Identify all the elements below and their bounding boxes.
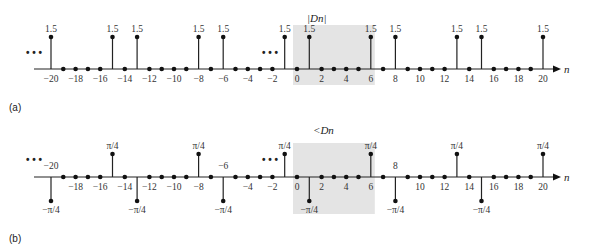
- stem-marker: [528, 67, 533, 72]
- stem-marker: [430, 175, 435, 180]
- stem-value-label: 1.5: [45, 24, 57, 34]
- x-tick-label: −4: [243, 74, 253, 84]
- stem-marker: [307, 199, 312, 204]
- stem-marker: [258, 175, 263, 180]
- x-tick-label: −12: [142, 74, 157, 84]
- stem-marker: [258, 67, 263, 72]
- x-tick-label: 12: [440, 74, 450, 84]
- stem-value-label: 1.5: [537, 24, 549, 34]
- stem-marker: [49, 35, 54, 40]
- x-tick-label: 10: [415, 182, 425, 192]
- stem-value-label: 1.5: [193, 24, 205, 34]
- x-tick-label: 6: [368, 74, 373, 84]
- stem-marker: [110, 35, 115, 40]
- stem-value-label: π/4: [279, 141, 291, 151]
- stem-marker: [246, 175, 251, 180]
- axis-arrow-icon: [553, 66, 561, 73]
- stem-marker: [405, 67, 410, 72]
- x-tick-label: 0: [295, 182, 300, 192]
- stem-marker: [467, 67, 472, 72]
- x-tick-label: −8: [194, 182, 204, 192]
- stem-marker: [123, 175, 128, 180]
- stem-marker: [233, 67, 238, 72]
- stem-marker: [442, 175, 447, 180]
- stem-marker: [442, 67, 447, 72]
- x-tick-label: −8: [194, 74, 204, 84]
- stem-value-label: −π/4: [301, 205, 319, 215]
- x-tick-label: −14: [117, 74, 132, 84]
- stem-marker: [246, 67, 251, 72]
- panel-label-a: (a): [9, 102, 21, 113]
- axis-label-n: n: [564, 63, 570, 75]
- x-tick-label: −10: [167, 182, 182, 192]
- stem-marker: [172, 175, 177, 180]
- stem-value-label: 1.5: [107, 24, 119, 34]
- stem-marker: [282, 35, 287, 40]
- stem-marker: [393, 199, 398, 204]
- stem-marker: [516, 67, 521, 72]
- x-tick-label: 20: [538, 74, 548, 84]
- stem-marker: [135, 199, 140, 204]
- x-tick-label: 20: [538, 182, 548, 192]
- stem-value-label: −π/4: [128, 205, 146, 215]
- stem-marker: [233, 175, 238, 180]
- x-tick-label: 2: [319, 182, 324, 192]
- x-tick-label: −14: [117, 182, 132, 192]
- stem-value-label: 1.5: [451, 24, 463, 34]
- x-tick-label: 14: [464, 74, 474, 84]
- stem-marker: [344, 175, 349, 180]
- stem-marker: [159, 67, 164, 72]
- stem-marker: [455, 152, 460, 157]
- stem-marker: [73, 67, 78, 72]
- x-tick-label: 0: [295, 74, 300, 84]
- stem-value-label: 1.5: [279, 24, 291, 34]
- stem-marker: [504, 67, 509, 72]
- x-tick-label: 4: [344, 182, 349, 192]
- stem-marker: [541, 152, 546, 157]
- x-tick-label: −18: [68, 182, 83, 192]
- stem-value-label: 1.5: [389, 24, 401, 34]
- x-tick-label: 10: [415, 74, 425, 84]
- stem-marker: [209, 67, 214, 72]
- ellipsis-left: • • •: [26, 154, 43, 165]
- stem-marker: [209, 175, 214, 180]
- stem-value-label: 1.5: [131, 24, 143, 34]
- stem-marker: [86, 175, 91, 180]
- stem-marker: [98, 175, 103, 180]
- x-tick-label: 16: [489, 182, 499, 192]
- stem-marker: [282, 152, 287, 157]
- stem-marker: [110, 152, 115, 157]
- stem-marker: [295, 67, 300, 72]
- stem-marker: [405, 175, 410, 180]
- stem-marker: [492, 175, 497, 180]
- stem-value-label: −π/4: [42, 205, 60, 215]
- stem-value-label: −π/4: [387, 205, 405, 215]
- axis-label-n: n: [564, 171, 570, 183]
- stem-marker: [147, 175, 152, 180]
- stem-value-label: −π/4: [473, 205, 491, 215]
- stem-value-label: π/4: [106, 141, 118, 151]
- stem-marker: [344, 67, 349, 72]
- highlight-region: [293, 25, 375, 85]
- stem-marker: [184, 175, 189, 180]
- panel-label-b: (b): [9, 233, 21, 244]
- x-tick-label: 16: [489, 74, 499, 84]
- x-tick-label: −6: [218, 74, 228, 84]
- x-tick-label: 2: [319, 74, 324, 84]
- stem-marker: [172, 67, 177, 72]
- stem-plot-figure: n|Dn|• • •• • •1.51.51.51.51.51.51.51.51…: [0, 0, 596, 252]
- stem-marker: [147, 67, 152, 72]
- stem-marker: [528, 175, 533, 180]
- stem-marker: [184, 67, 189, 72]
- panel-title: |Dn|: [307, 12, 327, 24]
- axis-arrow-icon: [553, 174, 561, 181]
- ellipsis-mid: • • •: [262, 154, 279, 165]
- stem-marker: [319, 175, 324, 180]
- x-tick-label: −18: [68, 74, 83, 84]
- ellipsis-mid: • • •: [262, 47, 279, 58]
- x-tick-label: 18: [514, 182, 524, 192]
- stem-marker: [381, 67, 386, 72]
- stem-marker: [61, 67, 66, 72]
- x-tick-label: 8: [393, 74, 398, 84]
- stem-marker: [196, 152, 201, 157]
